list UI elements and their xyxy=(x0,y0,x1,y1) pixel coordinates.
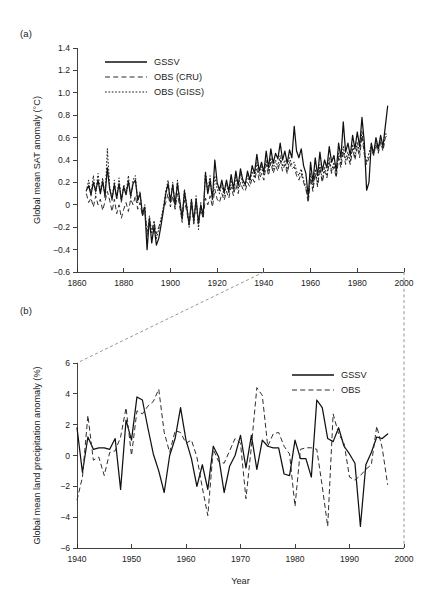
panel_a-y-tick-label: −0.4 xyxy=(53,245,70,255)
legend-label: GSSV xyxy=(341,370,367,380)
panel-a-label: (a) xyxy=(20,28,32,39)
panel_a-x-tick-label: 1940 xyxy=(254,278,273,288)
panel_b-y-tick-label: −4 xyxy=(60,512,70,522)
panel_b-x-tick-label: 1990 xyxy=(340,554,359,564)
chart-canvas: −0.6−0.4−0.200.20.40.60.81.01.21.4186018… xyxy=(0,0,424,609)
panel_b-x-tick-label: 1960 xyxy=(176,554,195,564)
figure-container: (a) (b) −0.6−0.4−0.200.20.40.60.81.01.21… xyxy=(0,0,424,609)
legend-label: GSSV xyxy=(154,57,180,67)
panel_a-y-tick-label: 0.6 xyxy=(58,133,70,143)
panel_b-y-tick-label: 2 xyxy=(65,420,70,430)
panel_a-y-tick-label: 0.2 xyxy=(58,177,70,187)
panel_a-x-tick-label: 1860 xyxy=(67,278,86,288)
panel_b-y-tick-label: 6 xyxy=(65,358,70,368)
panel_b-group: −6−4−202461940195019601970198019902000Gl… xyxy=(32,358,414,586)
panel_b-x-tick-label: 1940 xyxy=(67,554,86,564)
panel_a-series-gssv xyxy=(86,106,387,249)
panel_a-x-tick-label: 1980 xyxy=(348,278,367,288)
panel_b-legend: GSSVOBS xyxy=(292,370,367,395)
legend-label: OBS (CRU) xyxy=(154,72,202,82)
panel_b-series-gssv xyxy=(77,397,388,526)
panel_a-y-tick-label: −0.2 xyxy=(53,222,70,232)
panel_b-y-tick-label: 0 xyxy=(65,451,70,461)
panel_a-x-tick-label: 1880 xyxy=(114,278,133,288)
panel_b-y-axis-title: Global mean land precipitation anomaly (… xyxy=(32,366,42,544)
legend-label: OBS xyxy=(341,385,360,395)
panel_a-y-tick-label: −0.6 xyxy=(53,267,70,277)
panel_a-x-tick-label: 1920 xyxy=(208,278,227,288)
panel_b-x-tick-label: 1970 xyxy=(231,554,250,564)
panel_a-y-tick-label: 1.2 xyxy=(58,65,70,75)
panel_b-y-tick-label: −2 xyxy=(60,481,70,491)
panel_b-x-tick-label: 1950 xyxy=(122,554,141,564)
panel_b-y-tick-label: 4 xyxy=(65,389,70,399)
panel_b-x-axis-title: Year xyxy=(231,576,250,586)
panel_a-y-tick-label: 1.0 xyxy=(58,88,70,98)
panel_a-y-tick-label: 1.4 xyxy=(58,43,70,53)
panel_a-axes xyxy=(77,48,404,272)
panel-b-label: (b) xyxy=(20,305,32,316)
panel_a-x-tick-label: 1960 xyxy=(301,278,320,288)
panel_a-y-tick-label: 0.8 xyxy=(58,110,70,120)
legend-label: OBS (GISS) xyxy=(154,87,204,97)
panel_a-series-obs-giss xyxy=(86,131,387,239)
panel_b-x-tick-label: 2000 xyxy=(394,554,413,564)
panel_a-legend: GSSVOBS (CRU)OBS (GISS) xyxy=(105,57,204,97)
panel_a-y-tick-label: 0 xyxy=(65,200,70,210)
panel_b-x-tick-label: 1980 xyxy=(285,554,304,564)
panel_a-y-tick-label: 0.4 xyxy=(58,155,70,165)
panel_a-y-axis-title: Global mean SAT anomaly (°C) xyxy=(32,96,42,224)
panel_b-y-tick-label: −6 xyxy=(60,543,70,553)
panel_a-group: −0.6−0.4−0.200.20.40.60.81.01.21.4186018… xyxy=(32,43,414,288)
panel_a-x-tick-label: 1900 xyxy=(161,278,180,288)
